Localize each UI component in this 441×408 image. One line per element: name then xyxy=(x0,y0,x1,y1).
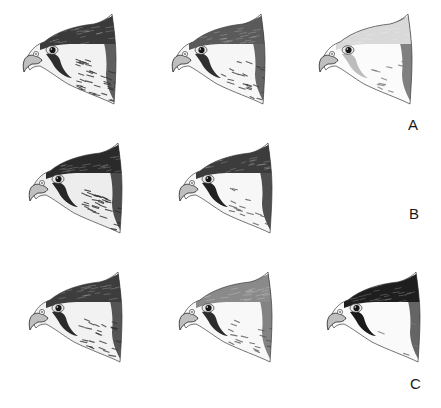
breast-streak xyxy=(236,352,243,354)
breast-streak xyxy=(89,356,95,357)
row-label-b: B xyxy=(409,206,419,221)
breast-streak xyxy=(79,357,85,359)
breast-streak xyxy=(89,356,93,358)
crown-hatch xyxy=(342,27,349,28)
falcon-head-drawing xyxy=(178,272,278,364)
falcon-head-a3 xyxy=(318,14,418,106)
breast-streak xyxy=(233,96,239,98)
falcon-head-b2 xyxy=(178,143,278,235)
breast-streak xyxy=(97,230,102,231)
crown-hatch xyxy=(199,31,205,32)
falcon-head-drawing xyxy=(28,272,128,364)
crown-hatch xyxy=(53,30,60,32)
breast-streak xyxy=(244,227,249,229)
breast-streak xyxy=(225,98,232,100)
nostril xyxy=(184,53,186,55)
breast-streak xyxy=(84,226,89,227)
breast-streak xyxy=(101,360,105,362)
crown-hatch xyxy=(358,28,364,30)
falcon-head-drawing xyxy=(28,143,128,235)
eye xyxy=(353,305,359,311)
crown-hatch xyxy=(209,28,216,30)
nostril xyxy=(35,53,37,55)
breast-streak xyxy=(121,341,128,343)
nostril xyxy=(41,311,43,313)
breast-streak xyxy=(227,99,231,100)
breast-streak xyxy=(120,346,127,347)
eye xyxy=(55,305,61,311)
row-label-a: A xyxy=(408,117,418,132)
eye-highlight xyxy=(207,177,209,179)
falcon-head-drawing xyxy=(318,14,418,106)
falcon-head-a2 xyxy=(171,14,271,106)
row-label-c: C xyxy=(410,376,421,391)
breast-streak xyxy=(94,224,100,226)
breast-streak xyxy=(379,94,383,96)
crown-hatch xyxy=(356,286,362,287)
breast-streak xyxy=(237,227,243,229)
breast-streak xyxy=(109,231,114,233)
breast-streak xyxy=(116,84,121,85)
breast-streak xyxy=(236,97,240,99)
breast-streak xyxy=(101,231,108,232)
breast-streak xyxy=(77,97,82,98)
breast-streak xyxy=(412,99,418,100)
breast-streak xyxy=(247,101,252,103)
crown-hatch xyxy=(57,159,62,160)
breast-streak xyxy=(84,349,88,351)
eye-highlight xyxy=(355,306,357,308)
crown-hatch xyxy=(211,156,219,157)
eye xyxy=(49,47,55,53)
falcon-head-b1 xyxy=(28,143,128,235)
breast-streak xyxy=(389,102,394,103)
nostril xyxy=(191,182,193,184)
eye-highlight xyxy=(57,306,59,308)
falcon-head-drawing xyxy=(326,272,426,364)
eye-highlight xyxy=(347,48,349,50)
crown-hatch xyxy=(217,155,226,157)
falcon-head-drawing xyxy=(22,14,122,106)
crown-hatch xyxy=(56,288,62,290)
crown-hatch xyxy=(60,159,65,161)
crown-hatch xyxy=(63,27,71,29)
crown-hatch xyxy=(204,159,209,160)
breast-streak xyxy=(235,231,241,233)
eye-highlight xyxy=(207,306,209,308)
falcon-head-c1 xyxy=(28,272,128,364)
breast-streak xyxy=(81,360,87,362)
nostril xyxy=(191,311,193,313)
eye-highlight xyxy=(51,48,53,50)
breast-streak xyxy=(82,228,88,230)
falcon-head-c3 xyxy=(326,272,426,364)
eye xyxy=(345,47,351,53)
falcon-head-a1 xyxy=(22,14,122,106)
falcon-head-drawing xyxy=(171,14,271,106)
breast-streak xyxy=(247,99,252,101)
eye xyxy=(205,176,211,182)
eye-highlight xyxy=(57,177,59,179)
crown-hatch xyxy=(352,29,358,31)
nostril xyxy=(41,182,43,184)
nostril xyxy=(339,311,341,313)
breast-streak xyxy=(84,226,91,228)
breast-streak xyxy=(82,228,87,230)
breast-streak xyxy=(121,215,127,217)
falcon-head-drawing xyxy=(178,143,278,235)
breast-streak xyxy=(246,100,252,101)
breast-streak xyxy=(93,355,99,356)
breast-streak xyxy=(74,91,78,92)
eye xyxy=(198,47,204,53)
eye xyxy=(55,176,61,182)
eye-highlight xyxy=(200,48,202,50)
breast-streak xyxy=(115,88,121,89)
falcon-head-c2 xyxy=(178,272,278,364)
eye xyxy=(205,305,211,311)
breast-streak xyxy=(76,91,82,92)
nostril xyxy=(331,53,333,55)
falcon-heads-plate: A B C xyxy=(0,0,441,408)
